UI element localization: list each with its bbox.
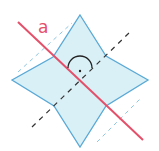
axis-label-a: a (38, 17, 48, 37)
star-symmetry-diagram: a (0, 0, 159, 151)
right-angle-dot (79, 70, 81, 72)
